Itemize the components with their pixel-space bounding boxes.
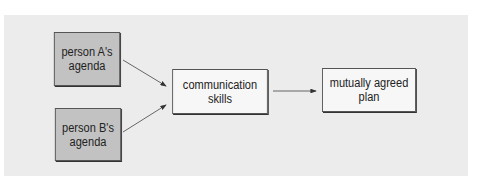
node-label: skills: [183, 92, 257, 106]
node-label: agenda: [61, 59, 112, 73]
node-communication-skills: communicationskills: [172, 69, 268, 114]
node-label: person A's: [61, 45, 112, 59]
node-label: mutually agreed: [330, 76, 409, 90]
arrow-a-to-comm: [123, 60, 166, 86]
node-person-b-agenda: person B'sagenda: [55, 108, 121, 161]
arrow-b-to-comm: [123, 105, 166, 132]
node-label: person B's: [62, 121, 114, 135]
node-mutually-agreed-plan: mutually agreedplan: [322, 68, 416, 112]
node-label: agenda: [62, 135, 114, 149]
node-label: communication: [183, 78, 257, 92]
node-label: plan: [330, 90, 409, 104]
node-person-a-agenda: person A'sagenda: [54, 32, 120, 86]
